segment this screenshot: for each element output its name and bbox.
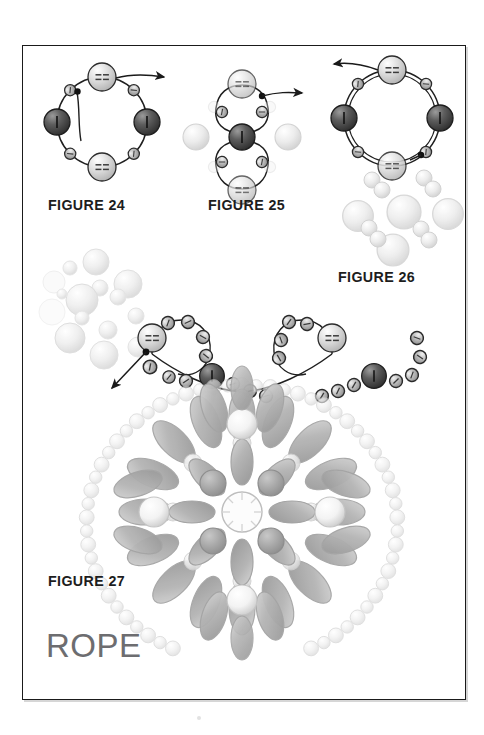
illustration-frame [22,45,466,700]
figure-27-label: FIGURE 27 [48,572,125,590]
page-root: FIGURE 24 FIGURE 25 FIGURE 26 FIGURE 27 … [0,0,484,735]
section-title-rope: ROPE [46,627,142,665]
page-speckle [197,716,201,720]
figure-25-label: FIGURE 25 [208,196,285,214]
figure-26-label: FIGURE 26 [338,268,415,286]
figure-24-label: FIGURE 24 [48,196,125,214]
